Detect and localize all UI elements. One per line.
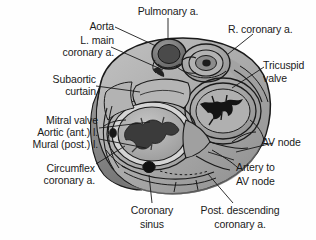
label-artery-to-av-node-line2: AV node bbox=[236, 176, 275, 188]
label-left-main-coronary-line1: L. main bbox=[18, 35, 114, 47]
label-aortic-anterior-leaflet: Aortic (ant.) l. bbox=[0, 127, 98, 139]
label-circumflex-line2: coronary a. bbox=[0, 175, 95, 187]
label-post-descending-line2: coronary a. bbox=[182, 219, 298, 231]
label-left-main-coronary-line2: coronary a. bbox=[8, 47, 114, 59]
label-right-coronary-artery: R. coronary a. bbox=[228, 24, 293, 36]
label-aorta: Aorta bbox=[18, 21, 114, 33]
label-subaortic-line1: Subaortic bbox=[4, 74, 96, 86]
aortic-root-cross-section bbox=[182, 44, 230, 82]
label-artery-to-av-node-line1: Artery to bbox=[236, 162, 275, 174]
coronary-sinus-ostium bbox=[143, 161, 155, 172]
label-av-node: AV node bbox=[262, 137, 301, 149]
label-subaortic-line2: curtain bbox=[4, 86, 96, 98]
circumflex-artery-cross-section bbox=[110, 129, 117, 138]
anatomical-figure: Pulmonary a. Aorta L. main coronary a. S… bbox=[0, 0, 316, 240]
label-mural-posterior-leaflet: Mural (post.) l. bbox=[0, 139, 98, 151]
label-circumflex-line1: Circumflex bbox=[0, 163, 95, 175]
label-pulmonary-artery: Pulmonary a. bbox=[117, 6, 219, 18]
label-tricuspid-line1: Tricuspid bbox=[263, 60, 304, 72]
label-tricuspid-line2: valve bbox=[263, 73, 287, 85]
label-post-descending-line1: Post. descending bbox=[182, 205, 298, 217]
label-mitral-valve: Mitral valve bbox=[0, 115, 98, 127]
